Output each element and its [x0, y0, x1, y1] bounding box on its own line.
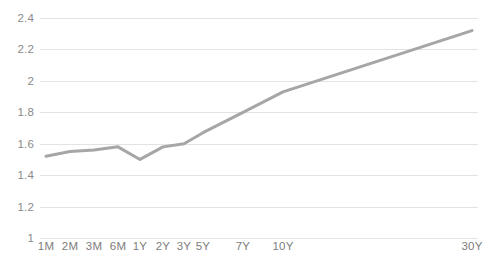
x-axis-tick-label: 10Y: [272, 240, 293, 252]
y-axis-tick-label: 2: [0, 75, 34, 87]
y-axis-tick-label: 1.6: [0, 138, 34, 150]
y-axis-tick-label: 1.4: [0, 169, 34, 181]
gridline: [40, 238, 478, 239]
line-chart: 2.42.221.81.61.41.21 1M2M3M6M1Y2Y3Y5Y7Y1…: [0, 0, 502, 267]
series-line-chart: [40, 18, 478, 238]
x-axis-tick-label: 3Y: [177, 240, 191, 252]
x-axis-labels: 1M2M3M6M1Y2Y3Y5Y7Y10Y30Y: [0, 240, 502, 262]
x-axis-tick-label: 1M: [38, 240, 54, 252]
y-axis-labels: 2.42.221.81.61.41.21: [0, 0, 34, 267]
y-axis-tick-label: 1.8: [0, 106, 34, 118]
y-axis-tick-label: 2.4: [0, 12, 34, 24]
x-axis-tick-label: 7Y: [236, 240, 250, 252]
x-axis-tick-label: 6M: [110, 240, 126, 252]
series-path-yield-curve: [46, 31, 472, 160]
x-axis-tick-label: 1Y: [133, 240, 147, 252]
x-axis-tick-label: 30Y: [461, 240, 482, 252]
y-axis-tick-label: 2.2: [0, 43, 34, 55]
x-axis-tick-label: 3M: [86, 240, 102, 252]
y-axis-tick-label: 1.2: [0, 201, 34, 213]
x-axis-tick-label: 2M: [62, 240, 78, 252]
x-axis-tick-label: 5Y: [196, 240, 210, 252]
plot-area: [40, 18, 478, 238]
x-axis-tick-label: 2Y: [156, 240, 170, 252]
